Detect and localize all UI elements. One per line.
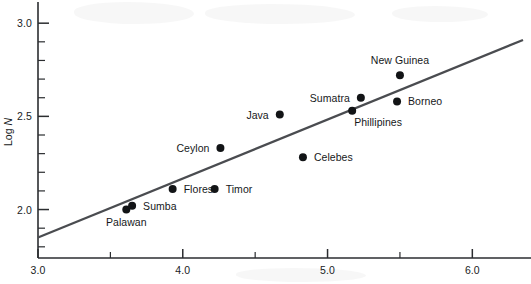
x-tick-label: 4.0: [175, 264, 190, 276]
data-point: [128, 202, 136, 210]
data-point-label: Palawan: [106, 216, 147, 228]
data-point-label: Sumatra: [310, 92, 350, 104]
x-axis-minor-ticks: [110, 252, 400, 258]
y-axis-tick-labels: 2.02.53.0: [17, 17, 32, 215]
y-tick-label: 2.5: [17, 110, 32, 122]
data-point: [299, 153, 307, 161]
data-point-label: New Guinea: [371, 54, 429, 66]
data-point-label: Celebes: [314, 151, 353, 163]
data-point-label: Sumba: [143, 200, 177, 212]
data-point: [169, 185, 177, 193]
data-point: [396, 71, 404, 79]
x-tick-label: 6.0: [465, 264, 480, 276]
data-point-label: Ceylon: [176, 142, 209, 154]
y-tick-label: 2.0: [17, 204, 32, 216]
data-point: [357, 94, 365, 102]
y-axis-major-ticks: [38, 23, 49, 209]
x-axis-tick-labels: 3.04.05.06.0: [31, 264, 480, 276]
data-point-group: [122, 71, 404, 213]
regression-fit-line: [38, 40, 523, 238]
data-point: [348, 107, 356, 115]
x-tick-label: 5.0: [320, 264, 335, 276]
y-tick-label: 3.0: [17, 17, 32, 29]
x-tick-label: 3.0: [31, 264, 46, 276]
data-point: [393, 97, 401, 105]
data-point-label: Borneo: [408, 95, 442, 107]
scatter-plot: 2.02.53.0 3.04.05.06.0 PalawanSumbaFlore…: [0, 0, 531, 284]
data-point: [276, 111, 284, 119]
data-point-label: Phillipines: [354, 116, 402, 128]
data-point-label: Timor: [226, 183, 253, 195]
data-point-label: Flores: [184, 183, 213, 195]
y-axis-title: Log N: [2, 118, 14, 146]
data-point-label: Java: [246, 109, 268, 121]
data-point: [216, 144, 224, 152]
chart-figure: 2.02.53.0 3.04.05.06.0 PalawanSumbaFlore…: [0, 0, 531, 284]
y-axis-minor-ticks: [38, 42, 45, 247]
